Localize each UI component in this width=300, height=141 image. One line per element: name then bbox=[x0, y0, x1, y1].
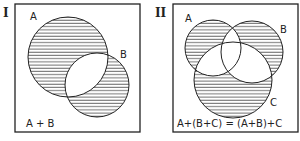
panel-two: II A B C A+(B+C) = (A+B)+C bbox=[155, 4, 298, 132]
set-c-label: C bbox=[270, 97, 277, 108]
set-a-label: A bbox=[185, 13, 192, 24]
hatched-region bbox=[15, 4, 140, 132]
set-b-label: B bbox=[120, 49, 127, 60]
venn-diagram-figure: I A B A + B II A B C A+(B+C) = (A+B)+C bbox=[0, 0, 300, 141]
set-b-label: B bbox=[280, 24, 287, 35]
formula-label: A+(B+C) = (A+B)+C bbox=[177, 118, 282, 129]
set-a-label: A bbox=[30, 11, 37, 22]
formula-label: A + B bbox=[26, 118, 55, 129]
panel-numeral: I bbox=[3, 6, 9, 20]
panel-numeral: II bbox=[155, 6, 167, 20]
panel-one: I A B A + B bbox=[3, 4, 140, 132]
